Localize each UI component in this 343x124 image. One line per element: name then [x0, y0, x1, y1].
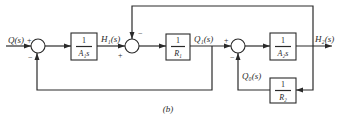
numerator: 1 — [281, 36, 285, 45]
summing-junction-2 — [125, 39, 139, 53]
q1-signal-label: Q₁(s) — [194, 34, 213, 44]
block-1-over-R2: 1 R₂ — [270, 78, 296, 103]
h2-to-r2-wire — [296, 46, 313, 90]
sum2-minus-sign: − — [138, 29, 143, 38]
arrowhead — [64, 44, 71, 49]
denominator: R₂ — [278, 93, 287, 102]
arrowhead — [325, 44, 332, 49]
block-1-over-A2s: 1 A₂s — [270, 33, 296, 60]
summing-junction-3 — [231, 39, 245, 53]
numerator: 1 — [82, 36, 86, 45]
sum2-plus-sign: + — [118, 51, 123, 60]
denominator: R₁ — [173, 49, 182, 58]
arrowhead — [296, 88, 303, 93]
arrowhead — [35, 53, 40, 60]
h2-signal-label: H₂(s) — [314, 34, 334, 44]
denominator: A₂s — [277, 49, 289, 58]
sum1-plus-sign: + — [27, 36, 32, 45]
figure-caption: (b) — [163, 104, 174, 114]
h1-signal-label: H₁(s) — [100, 34, 120, 44]
input-signal-label: Q(s) — [8, 35, 24, 45]
sum3-minus-sign: − — [230, 53, 235, 62]
sum3-plus-sign: + — [224, 36, 229, 45]
block-1-over-A1s: 1 A₁s — [71, 33, 97, 60]
block-diagram: 1 A₁s 1 R₁ 1 A₂s 1 R₂ Q(s) H₁(s) Q₁(s) H… — [0, 0, 343, 124]
numerator: 1 — [281, 80, 285, 89]
sum1-minus-sign: − — [28, 53, 33, 62]
arrowhead — [118, 44, 125, 49]
block-1-over-R1: 1 R₁ — [166, 34, 190, 60]
denominator: A₁s — [78, 49, 90, 58]
arrowhead — [159, 44, 166, 49]
arrowhead — [130, 32, 135, 39]
arrowhead — [263, 44, 270, 49]
q0-signal-label: Q₀(s) — [242, 71, 261, 81]
summing-junction-1 — [31, 39, 45, 53]
arrowhead — [236, 53, 241, 60]
numerator: 1 — [176, 36, 180, 45]
